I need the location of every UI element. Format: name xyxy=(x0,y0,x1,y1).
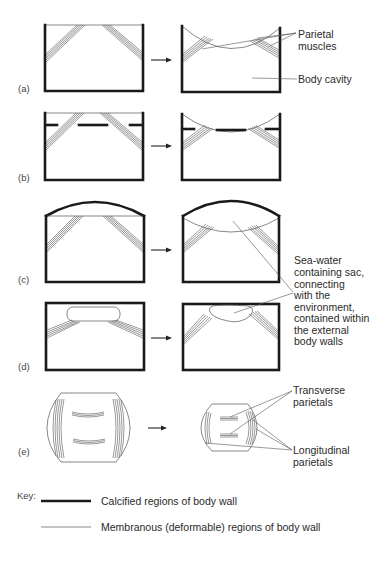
panel-d: (d) xyxy=(18,293,293,372)
calcified-wall xyxy=(182,26,280,92)
longitudinal-parietals-right xyxy=(113,399,124,458)
parietal-muscle-left xyxy=(46,113,84,150)
label-longitudinal-parietals-line2: parietals xyxy=(293,456,333,468)
calcified-wall xyxy=(45,25,143,91)
panel-b: (b) xyxy=(18,113,280,183)
parietal-muscle-right xyxy=(250,38,279,58)
sea-water-line4: with the xyxy=(293,289,330,301)
parietal-muscle-left xyxy=(183,36,213,62)
transition-arrow xyxy=(151,248,172,253)
calcified-dome xyxy=(46,202,144,216)
panel-c-before xyxy=(46,202,144,282)
sea-water-line8: body walls xyxy=(294,335,343,347)
parietal-muscle-right xyxy=(249,311,278,339)
legend-title: Key: xyxy=(17,490,36,501)
panel-d-after xyxy=(183,293,293,370)
parietal-muscle-right xyxy=(108,320,143,338)
calcified-dome xyxy=(183,201,279,216)
panel-label-a: (a) xyxy=(18,83,30,94)
transition-arrow xyxy=(151,58,172,63)
panel-d-before xyxy=(46,303,144,370)
transverse-parietals xyxy=(220,417,238,437)
legend-label-membranous: Membranous (deformable) regions of body … xyxy=(101,521,320,533)
panel-label-d: (d) xyxy=(18,361,30,372)
panel-e-after xyxy=(201,391,292,451)
membranous-sac-floor-deformed xyxy=(183,218,279,232)
parietal-muscle-left xyxy=(46,25,85,62)
panel-c: (c) xyxy=(18,201,293,292)
parietal-muscle-left xyxy=(47,216,83,252)
sea-water-line2: containing sac, xyxy=(294,266,364,278)
parietal-muscle-left xyxy=(184,314,212,344)
legend-label-calcified: Calcified regions of body wall xyxy=(101,495,237,507)
label-transverse-parietals-line2: parietals xyxy=(293,396,333,408)
longitudinal-parietals-left xyxy=(205,412,211,444)
panel-c-after xyxy=(183,201,293,292)
longitudinal-parietals-right xyxy=(246,411,255,445)
parietal-muscle-right xyxy=(100,113,142,150)
panel-e: (e) xyxy=(18,384,350,468)
parietal-muscle-right xyxy=(102,25,142,60)
label-parietal-muscles-line1: Parietal xyxy=(298,28,334,40)
parietal-muscle-left xyxy=(47,320,80,338)
panel-label-c: (c) xyxy=(18,274,29,285)
label-longitudinal-parietals-line1: Longitudinal xyxy=(293,444,350,456)
transverse-parietals xyxy=(72,412,105,444)
sea-water-line1: Sea-water xyxy=(294,254,342,266)
label-sea-water-sac: Sea-water containing sac, connecting wit… xyxy=(293,254,369,347)
longitudinal-parietals-left xyxy=(53,399,64,458)
panel-b-before xyxy=(45,113,143,180)
panel-label-b: (b) xyxy=(18,172,30,183)
sea-water-sac xyxy=(67,307,120,321)
panel-a-after xyxy=(182,26,297,92)
panel-e-before xyxy=(47,393,130,462)
panel-a: (a) xyxy=(18,25,352,94)
diagram-canvas: (a) xyxy=(0,0,389,563)
label-transverse-parietals-line1: Transverse xyxy=(293,384,345,396)
label-parietal-muscles-line2: muscles xyxy=(298,40,337,52)
parietal-muscle-right xyxy=(248,225,278,254)
parietal-muscle-left xyxy=(184,224,214,252)
transition-arrow xyxy=(148,426,167,431)
parietal-muscle-right xyxy=(103,216,143,252)
sea-water-line6: contained within xyxy=(294,312,369,324)
panel-label-e: (e) xyxy=(18,446,30,457)
label-body-cavity: Body cavity xyxy=(298,73,352,85)
panel-a-before xyxy=(45,25,143,91)
transition-arrow xyxy=(151,144,172,149)
transition-arrow xyxy=(151,336,172,341)
panel-b-after xyxy=(182,114,280,180)
sea-water-sac-deformed xyxy=(209,305,252,322)
legend: Key: Calcified regions of body wall Memb… xyxy=(17,490,320,533)
